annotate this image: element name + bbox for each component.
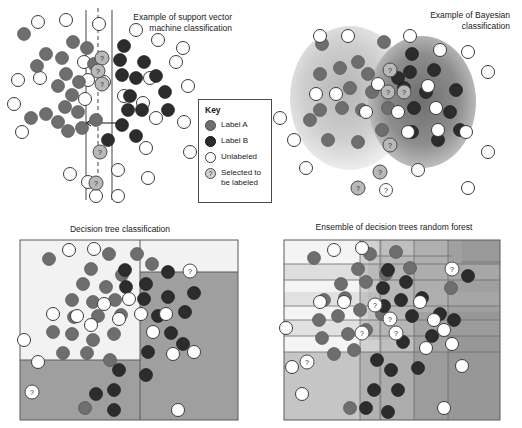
panel-decision-tree: Decision tree classification bbox=[0, 212, 262, 428]
decision-tree-plot: ? ? bbox=[0, 212, 262, 428]
selected-marker[interactable]: ? bbox=[383, 138, 397, 152]
key-item-selected: ? Selected to be labeled bbox=[205, 168, 266, 187]
key-title: Key bbox=[205, 105, 266, 115]
key-item-unlabeled: Unlabeled bbox=[205, 152, 266, 163]
key-item-label: Unlabeled bbox=[221, 152, 257, 162]
selected-marker[interactable]: ? bbox=[397, 85, 411, 99]
selected-marker[interactable]: ? bbox=[389, 326, 403, 340]
panel-bayesian: Example of Bayesian classification bbox=[262, 0, 522, 212]
selected-marker[interactable]: ? bbox=[300, 355, 314, 369]
selected-marker[interactable]: ? bbox=[91, 64, 105, 78]
label-a-dot-icon bbox=[205, 120, 216, 131]
svg-text:?: ? bbox=[373, 302, 377, 309]
key-item-label-a: Label A bbox=[205, 120, 266, 131]
selected-marker[interactable]: ? bbox=[25, 385, 39, 399]
key-item-label: Label A bbox=[221, 120, 248, 130]
svg-text:?: ? bbox=[96, 68, 100, 75]
svg-text:?: ? bbox=[386, 89, 390, 96]
selected-marker[interactable]: ? bbox=[89, 176, 103, 190]
selected-marker[interactable]: ? bbox=[351, 181, 365, 195]
selected-marker[interactable]: ? bbox=[95, 51, 109, 65]
svg-text:?: ? bbox=[388, 142, 392, 149]
key-legend: Key Label A Label B Unlabeled ? Selected… bbox=[198, 99, 272, 203]
selected-marker[interactable]: ? bbox=[368, 298, 382, 312]
svg-text:?: ? bbox=[384, 187, 388, 194]
key-item-label: Selected to be labeled bbox=[221, 168, 266, 187]
selected-dot-icon: ? bbox=[205, 168, 216, 179]
svg-text:?: ? bbox=[378, 169, 382, 176]
selected-marker[interactable]: ? bbox=[383, 312, 397, 326]
svg-text:?: ? bbox=[360, 330, 364, 337]
selected-marker[interactable]: ? bbox=[381, 85, 395, 99]
panel-random-forest: Ensemble of decision trees random forest bbox=[262, 212, 522, 428]
key-item-label: Label B bbox=[221, 136, 248, 146]
panel-random-forest-title: Ensemble of decision trees random forest bbox=[282, 222, 506, 233]
selected-marker[interactable]: ? bbox=[93, 145, 107, 159]
selected-marker[interactable]: ? bbox=[95, 77, 109, 91]
selected-marker[interactable]: ? bbox=[380, 184, 393, 197]
svg-text:?: ? bbox=[450, 266, 454, 273]
svg-text:?: ? bbox=[305, 359, 309, 366]
panel-svm-title: Example of support vector machine classi… bbox=[96, 12, 232, 33]
selected-marker[interactable]: ? bbox=[383, 63, 397, 77]
selected-marker[interactable]: ? bbox=[445, 262, 459, 276]
svg-text:?: ? bbox=[100, 81, 104, 88]
selected-marker[interactable]: ? bbox=[183, 264, 197, 278]
bayesian-scatter-plot: ? ? ? ? ? ? ? bbox=[262, 0, 522, 212]
panel-bayesian-title: Example of Bayesian classification bbox=[374, 10, 510, 31]
svg-text:?: ? bbox=[188, 268, 192, 275]
random-forest-plot: ? ? ? ? ? ? bbox=[262, 212, 522, 428]
svg-text:?: ? bbox=[94, 180, 98, 187]
selected-marker[interactable]: ? bbox=[373, 165, 387, 179]
svg-text:?: ? bbox=[100, 55, 104, 62]
svg-text:?: ? bbox=[98, 149, 102, 156]
svg-text:?: ? bbox=[356, 185, 360, 192]
svg-text:?: ? bbox=[402, 89, 406, 96]
label-b-dot-icon bbox=[205, 136, 216, 147]
panel-decision-tree-title: Decision tree classification bbox=[20, 224, 220, 235]
svg-text:?: ? bbox=[388, 67, 392, 74]
selected-marker[interactable]: ? bbox=[355, 326, 369, 340]
svg-text:?: ? bbox=[30, 389, 34, 396]
unlabeled-dot-icon bbox=[205, 152, 216, 163]
svg-text:?: ? bbox=[394, 330, 398, 337]
key-item-label-b: Label B bbox=[205, 136, 266, 147]
svg-text:?: ? bbox=[388, 316, 392, 323]
